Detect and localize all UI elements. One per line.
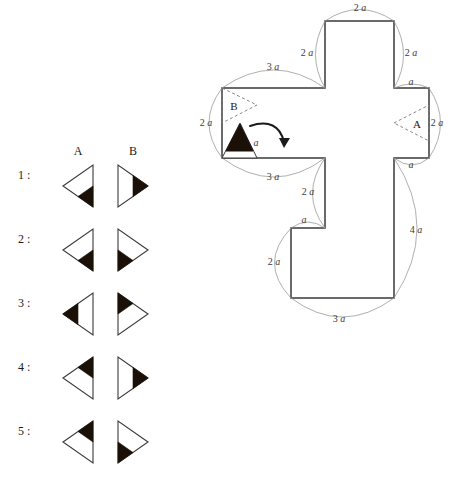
column-header-b: B [123,144,143,159]
dimension-black-tri-side: a [254,137,259,148]
dimension-top-arm-right: 2 a [405,47,418,58]
dimension-lower-left-bottom: 3 a [267,171,280,182]
net-figure-panel: BA2 a2 a2 a3 aa2 a2 aa3 aa2 aa2 a4 a3 a [190,0,469,493]
dimension-right-arm-top: a [409,76,414,87]
dimension-label: a [254,137,259,148]
triangle-label-b: B [230,100,237,112]
dimension-label: 3 a [267,61,280,72]
puzzle-figure-root: A B 1 : 2 : 3 : 4 : 5 : BA2 a2 a2 a3 aa2… [0,0,469,493]
dimension-notch-horizontal: a [302,214,307,225]
arc-upper-left-top [222,70,325,88]
net-outline [222,21,429,298]
option-row-label-2: 2 : [18,232,30,247]
dimension-label: 3 a [333,313,346,324]
option-row-label-5: 5 : [18,424,30,439]
option-triangle-shaded-region [133,368,148,389]
dimension-label: 2 a [200,117,213,128]
dimension-label: 2 a [301,47,314,58]
option-4-a [63,357,93,399]
dimension-label: 2 a [431,117,444,128]
dimension-label: 3 a [267,171,280,182]
option-row-label-4: 4 : [18,360,30,375]
option-3-b [118,293,148,335]
dimension-label: a [302,214,307,225]
dimension-label: 2 a [268,256,281,267]
column-header-a: A [68,144,88,159]
option-row-label-1: 1 : [18,168,30,183]
dimension-bottom-width: 3 a [333,313,346,324]
option-5-a [63,421,93,463]
dimension-label: a [409,159,414,170]
dimension-left-arm-height: 2 a [200,117,213,128]
arc-top-arm-left [316,21,326,88]
dimension-label: 2 a [302,186,315,197]
dimension-label: 2 a [354,2,367,13]
option-4-b [118,357,148,399]
dimension-label: 2 a [405,47,418,58]
dimension-label: 4 a [410,224,423,235]
option-2-b [118,229,148,271]
net-figure-svg: BA2 a2 a2 a3 aa2 a2 aa3 aa2 aa2 a4 a3 a [190,0,469,493]
arc-top-arm-right [394,21,404,88]
dimension-top-arm-width: 2 a [354,2,367,13]
dimension-label: a [409,76,414,87]
option-row-label-3: 3 : [18,296,30,311]
option-triangle-shaded-region [63,304,78,325]
dimension-right-lower-height: 4 a [410,224,423,235]
arc-notch-vertical [313,158,326,228]
option-1-b [118,165,148,207]
dimension-top-arm-left: 2 a [301,47,314,58]
dimension-notch-vertical: 2 a [302,186,315,197]
arc-notch-horizontal [291,222,325,228]
option-2-a [63,229,93,271]
option-3-a [63,293,93,335]
answer-options-panel: A B 1 : 2 : 3 : 4 : 5 : [0,0,190,493]
dimension-upper-left-top: 3 a [267,61,280,72]
triangle-label-a: A [413,118,421,130]
dimension-left-lower-height: 2 a [268,256,281,267]
option-triangle-shaded-region [133,176,148,197]
dimension-right-arm-bottom: a [409,159,414,170]
option-1-a [63,165,93,207]
option-5-b [118,421,148,463]
dimension-right-arm-height: 2 a [431,117,444,128]
